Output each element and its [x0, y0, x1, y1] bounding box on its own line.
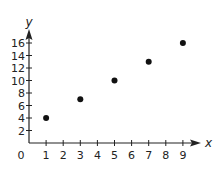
x-tick-label: 7 [145, 149, 152, 162]
data-point [77, 96, 83, 102]
axes [26, 29, 202, 147]
data-point [146, 59, 152, 65]
data-point [43, 115, 49, 121]
labels: 1234567892468101214160xy [11, 15, 213, 162]
scatter-chart: 1234567892468101214160xy [0, 0, 218, 169]
x-tick-label: 6 [128, 149, 135, 162]
x-tick-label: 4 [94, 149, 101, 162]
y-axis-label: y [24, 15, 33, 29]
x-axis-label: x [204, 136, 213, 150]
y-tick-label: 4 [18, 112, 25, 125]
y-tick-label: 12 [11, 62, 25, 75]
ticks [26, 43, 183, 146]
x-tick-label: 1 [43, 149, 50, 162]
data-points [43, 40, 186, 121]
y-tick-label: 6 [18, 100, 25, 113]
y-tick-label: 8 [18, 87, 25, 100]
origin-label: 0 [18, 149, 25, 162]
y-tick-label: 2 [18, 125, 25, 138]
x-tick-label: 5 [111, 149, 118, 162]
y-tick-label: 14 [11, 50, 25, 63]
y-tick-label: 10 [11, 75, 25, 88]
x-tick-label: 3 [77, 149, 84, 162]
data-point [112, 78, 118, 84]
x-tick-label: 8 [162, 149, 169, 162]
data-point [180, 40, 186, 46]
x-tick-label: 9 [179, 149, 186, 162]
y-tick-label: 16 [11, 37, 25, 50]
x-tick-label: 2 [60, 149, 67, 162]
